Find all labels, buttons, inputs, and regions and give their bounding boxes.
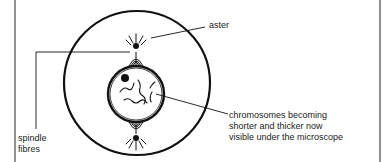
cell-membrane — [64, 11, 210, 155]
aster-leader-line — [151, 27, 205, 38]
chromosomes-leader-line — [156, 94, 228, 114]
nucleus — [108, 66, 164, 122]
chromosomes-label-line-2: shorter and thicker now — [229, 121, 343, 132]
spindle-label-line-2: fibres — [18, 144, 47, 155]
chromosomes-label: chromosomes becoming shorter and thicker… — [229, 110, 343, 143]
nucleus-inner — [110, 68, 162, 120]
lower-centriole — [133, 135, 139, 141]
chromosomes-label-line-3: visible under the microscope — [229, 132, 343, 143]
lower-aster-rays — [126, 139, 146, 150]
nucleolus — [121, 74, 129, 82]
aster-label: aster — [209, 20, 229, 31]
chromosomes — [120, 80, 155, 104]
chromosomes-label-line-1: chromosomes becoming — [229, 110, 343, 121]
spindle-fibres-label: spindle fibres — [18, 133, 47, 155]
upper-centriole — [133, 43, 139, 49]
spindle-label-line-1: spindle — [18, 133, 47, 144]
spindle-leader-line — [36, 52, 130, 129]
upper-spindle — [129, 52, 143, 66]
upper-aster-rays — [126, 34, 146, 45]
lower-spindle — [129, 122, 143, 134]
